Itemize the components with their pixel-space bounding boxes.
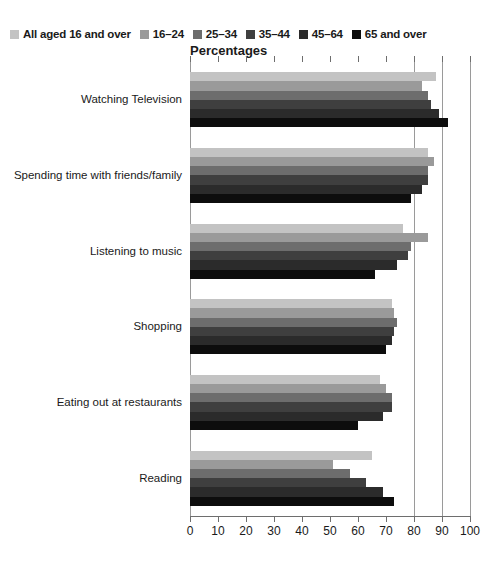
bar[interactable] — [190, 233, 428, 242]
bar[interactable] — [190, 451, 372, 460]
x-axis-tick-label: 100 — [460, 524, 480, 538]
gridline — [414, 62, 415, 516]
bar[interactable] — [190, 260, 397, 269]
plot-area — [190, 62, 470, 516]
bar[interactable] — [190, 157, 434, 166]
category-label: Watching Television — [2, 92, 182, 107]
bar[interactable] — [190, 251, 408, 260]
bar[interactable] — [190, 72, 436, 81]
bar[interactable] — [190, 81, 422, 90]
bar-group — [190, 72, 470, 127]
bar[interactable] — [190, 469, 350, 478]
legend-item[interactable]: 35–44 — [246, 28, 290, 40]
x-axis-tick — [246, 516, 247, 522]
bar-group — [190, 375, 470, 430]
bar[interactable] — [190, 270, 375, 279]
bar-group — [190, 451, 470, 506]
category-label: Shopping — [2, 319, 182, 334]
category-label: Eating out at restaurants — [2, 395, 182, 410]
bar-group — [190, 224, 470, 279]
bar[interactable] — [190, 336, 392, 345]
x-axis-tick-label: 40 — [295, 524, 308, 538]
x-axis-tick-top — [246, 56, 247, 62]
x-axis-tick — [274, 516, 275, 522]
x-axis-tick — [302, 516, 303, 522]
legend-item-label: 45–64 — [312, 28, 343, 40]
x-axis-tick-label: 0 — [187, 524, 194, 538]
chart-legend: All aged 16 and over16–2425–3435–4445–64… — [10, 26, 491, 42]
legend-swatch-icon — [10, 30, 19, 39]
bar[interactable] — [190, 166, 428, 175]
bar[interactable] — [190, 487, 383, 496]
legend-swatch-icon — [299, 30, 308, 39]
bar[interactable] — [190, 345, 386, 354]
x-axis-tick-top — [190, 56, 191, 62]
legend-item[interactable]: 45–64 — [299, 28, 343, 40]
bar[interactable] — [190, 497, 394, 506]
x-axis-tick-top — [358, 56, 359, 62]
legend-item[interactable]: 25–34 — [193, 28, 237, 40]
bar-group — [190, 299, 470, 354]
bar[interactable] — [190, 242, 411, 251]
x-axis-tick — [386, 516, 387, 522]
x-axis-tick — [442, 516, 443, 522]
bar[interactable] — [190, 393, 392, 402]
category-label: Reading — [2, 471, 182, 486]
legend-swatch-icon — [140, 30, 149, 39]
legend-item[interactable]: 16–24 — [140, 28, 184, 40]
x-axis-tick-label: 30 — [267, 524, 280, 538]
bar[interactable] — [190, 118, 448, 127]
legend-swatch-icon — [352, 30, 361, 39]
x-axis-tick — [358, 516, 359, 522]
x-axis-tick-label: 80 — [407, 524, 420, 538]
bar[interactable] — [190, 412, 383, 421]
bar[interactable] — [190, 402, 392, 411]
bar[interactable] — [190, 421, 358, 430]
legend-item-label: All aged 16 and over — [23, 28, 131, 40]
x-axis-tick — [330, 516, 331, 522]
x-axis-tick-label: 20 — [239, 524, 252, 538]
bar[interactable] — [190, 327, 394, 336]
x-axis-tick-top — [414, 56, 415, 62]
category-label: Listening to music — [2, 244, 182, 259]
legend-item[interactable]: 65 and over — [352, 28, 427, 40]
bar[interactable] — [190, 478, 366, 487]
bar[interactable] — [190, 91, 428, 100]
legend-item-label: 65 and over — [365, 28, 427, 40]
x-axis-tick-top — [470, 56, 471, 62]
legend-item-label: 35–44 — [259, 28, 290, 40]
x-axis-tick — [190, 516, 191, 522]
bar[interactable] — [190, 185, 422, 194]
bar[interactable] — [190, 224, 403, 233]
x-axis-tick-top — [386, 56, 387, 62]
x-axis-tick — [470, 516, 471, 522]
x-axis-tick-label: 60 — [351, 524, 364, 538]
legend-item[interactable]: All aged 16 and over — [10, 28, 131, 40]
bar[interactable] — [190, 318, 397, 327]
bar[interactable] — [190, 308, 394, 317]
legend-item-label: 25–34 — [206, 28, 237, 40]
legend-swatch-icon — [246, 30, 255, 39]
bar-chart: All aged 16 and over16–2425–3435–4445–64… — [0, 0, 501, 569]
bar[interactable] — [190, 375, 380, 384]
gridline — [442, 62, 443, 516]
x-axis-tick-label: 70 — [379, 524, 392, 538]
bar[interactable] — [190, 384, 386, 393]
x-axis-tick-top — [274, 56, 275, 62]
x-axis-tick-top — [330, 56, 331, 62]
plot-title: Percentages — [190, 43, 390, 58]
x-axis-tick-label: 90 — [435, 524, 448, 538]
bar[interactable] — [190, 148, 428, 157]
x-axis-tick — [414, 516, 415, 522]
category-label: Spending time with friends/family — [2, 168, 182, 183]
bar[interactable] — [190, 299, 392, 308]
x-axis-tick-top — [442, 56, 443, 62]
bar[interactable] — [190, 460, 333, 469]
bar[interactable] — [190, 175, 428, 184]
x-axis-tick-label: 50 — [323, 524, 336, 538]
bar[interactable] — [190, 194, 411, 203]
x-axis-tick-label: 10 — [211, 524, 224, 538]
bar[interactable] — [190, 109, 439, 118]
x-axis-tick-top — [302, 56, 303, 62]
bar[interactable] — [190, 100, 431, 109]
